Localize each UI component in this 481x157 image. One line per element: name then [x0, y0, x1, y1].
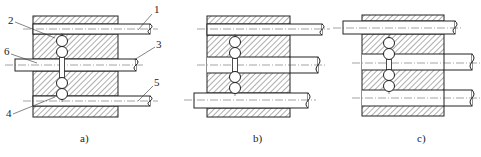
panel-c: c)	[333, 15, 480, 145]
rod-3	[184, 93, 316, 108]
locking-pin	[233, 58, 238, 72]
steel-ball	[384, 49, 395, 60]
part-number-label: 1	[154, 3, 160, 15]
panel-caption: b)	[253, 132, 263, 145]
panel-caption: a)	[80, 132, 89, 145]
rod-2	[197, 57, 326, 73]
panel-b: b)	[184, 16, 330, 145]
part-number-label: 5	[154, 76, 160, 88]
steel-ball	[57, 47, 68, 58]
rod-2	[5, 59, 144, 71]
rod-1	[197, 24, 330, 35]
rod-1	[23, 24, 158, 34]
steel-ball	[384, 70, 395, 81]
locking-pin	[387, 59, 392, 70]
rod-1	[333, 21, 463, 34]
leader-line	[134, 47, 155, 60]
rod-3	[23, 96, 158, 106]
locking-pin	[60, 57, 65, 78]
steel-ball	[230, 48, 241, 59]
part-number-label: 2	[8, 14, 14, 26]
steel-ball	[57, 89, 68, 100]
panel-a: 123654a)	[4, 3, 162, 145]
panel-caption: c)	[417, 132, 426, 145]
steel-ball	[230, 83, 241, 94]
part-number-label: 3	[156, 38, 162, 50]
ball-interlock-diagram: 123654a)b)c)	[0, 0, 481, 157]
steel-ball	[384, 81, 395, 92]
part-number-label: 4	[6, 107, 12, 119]
steel-ball	[230, 72, 241, 83]
steel-ball	[384, 38, 395, 49]
steel-ball	[57, 36, 68, 47]
rod-2	[352, 54, 480, 70]
part-number-label: 6	[4, 45, 10, 57]
steel-ball	[230, 37, 241, 48]
steel-ball	[57, 78, 68, 89]
rod-3	[352, 90, 480, 106]
